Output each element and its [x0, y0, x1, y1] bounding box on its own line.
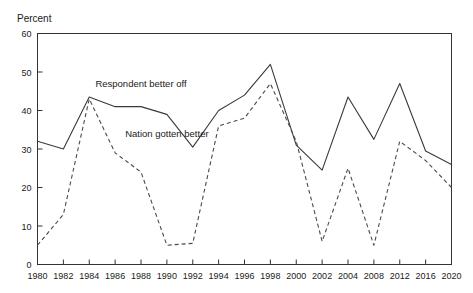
- x-tick-label: 2000: [286, 271, 306, 281]
- x-axis-ticks: [38, 260, 452, 265]
- series-inline-label: Nation gotten better: [125, 128, 208, 139]
- y-axis-title: Percent: [17, 13, 52, 24]
- chart-figure: Percent 0102030405060 198019821984198619…: [0, 0, 473, 293]
- y-tick-label: 30: [21, 145, 31, 155]
- y-tick-label: 20: [21, 183, 31, 193]
- x-tick-label: 2016: [416, 271, 436, 281]
- x-tick-label: 1982: [53, 271, 73, 281]
- x-tick-label: 2002: [312, 271, 332, 281]
- line-chart: Percent 0102030405060 198019821984198619…: [0, 0, 473, 293]
- x-tick-label: 1990: [157, 271, 177, 281]
- y-axis-ticks: [38, 34, 43, 265]
- x-tick-label: 1988: [131, 271, 151, 281]
- x-tick-label: 2012: [390, 271, 410, 281]
- y-tick-label: 10: [21, 222, 31, 232]
- series-inline-labels: Respondent better offNation gotten bette…: [95, 78, 208, 139]
- y-tick-label: 50: [21, 68, 31, 78]
- x-tick-label: 2020: [441, 271, 461, 281]
- y-tick-label: 60: [21, 29, 31, 39]
- x-tick-label: 1980: [27, 271, 47, 281]
- y-axis-tick-labels: 0102030405060: [21, 29, 31, 270]
- x-tick-label: 2004: [338, 271, 358, 281]
- x-tick-label: 1986: [105, 271, 125, 281]
- x-tick-label: 1984: [79, 271, 99, 281]
- y-tick-label: 0: [26, 260, 31, 270]
- x-tick-label: 1992: [183, 271, 203, 281]
- plot-frame: [38, 34, 452, 265]
- x-tick-label: 1998: [260, 271, 280, 281]
- y-tick-label: 40: [21, 106, 31, 116]
- x-axis-tick-labels: 1980198219841986198819901992199419961998…: [27, 271, 461, 281]
- x-tick-label: 2008: [364, 271, 384, 281]
- series-inline-label: Respondent better off: [95, 78, 187, 89]
- x-tick-label: 1994: [209, 271, 229, 281]
- x-tick-label: 1996: [234, 271, 254, 281]
- series-line-nation-gotten-better: [38, 84, 452, 246]
